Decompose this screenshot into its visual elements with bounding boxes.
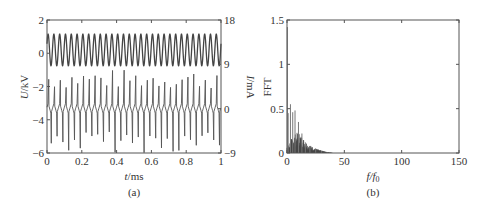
- x-tick-label: 0: [284, 155, 290, 167]
- y-tick-label-left: 2: [39, 14, 45, 26]
- figure: 00.20.40.60.81 −6−4−202 −90918 t/ms (a) …: [0, 0, 488, 208]
- y-tick-label-right: 18: [224, 14, 236, 26]
- panel-b-fft: 050100150 00.511.5 f/f0 (b) FFT: [261, 14, 468, 199]
- x-tick-label: 0.6: [145, 155, 159, 167]
- y-tick-label-right: −9: [224, 147, 236, 159]
- panel-b-x-label: f/f0: [366, 170, 379, 184]
- panel-a-caption: (a): [128, 186, 141, 199]
- x-tick-label: 0: [44, 155, 50, 167]
- panel-b-caption: (b): [367, 186, 380, 199]
- y-tick-label-left: −6: [32, 147, 44, 159]
- y-tick-label-left: −4: [32, 114, 44, 126]
- panel-b-plot-area: [287, 27, 335, 153]
- y-tick-label-right: 9: [224, 58, 230, 70]
- y-tick-label: 1.5: [270, 14, 284, 26]
- x-tick-label: 0.8: [179, 155, 193, 167]
- y-tick-label-left: −2: [32, 81, 44, 93]
- y-tick-label: 1: [279, 58, 285, 70]
- y-tick-label-left: 0: [39, 47, 45, 59]
- x-tick-label: 150: [451, 155, 468, 167]
- x-tick-label: 100: [393, 155, 410, 167]
- x-tick-label: 0.4: [110, 155, 124, 167]
- x-tick-label: 50: [339, 155, 351, 167]
- x-tick-label: 1: [218, 155, 224, 167]
- panel-b-y-label: FFT: [261, 77, 273, 96]
- panel-a-time-series: 00.20.40.60.81 −6−4−202 −90918 t/ms (a) …: [18, 14, 257, 199]
- panel-b-axes-frame: [287, 20, 459, 153]
- panel-a-y-label-left: U/kV: [18, 75, 30, 100]
- panel-a-plot-area: [47, 34, 221, 153]
- figure-svg: 00.20.40.60.81 −6−4−202 −90918 t/ms (a) …: [0, 0, 488, 208]
- x-tick-label: 0.2: [75, 155, 89, 167]
- voltage-trace: [47, 34, 221, 66]
- panel-b-x-ticks: 050100150: [284, 20, 468, 167]
- panel-a-x-label: t/ms: [125, 170, 144, 182]
- y-tick-label: 0.5: [270, 103, 284, 115]
- current-trace: [47, 70, 221, 153]
- y-tick-label-right: 0: [224, 103, 230, 115]
- panel-a-y-label-right: I/mA: [245, 74, 257, 98]
- y-tick-label: 0: [279, 147, 285, 159]
